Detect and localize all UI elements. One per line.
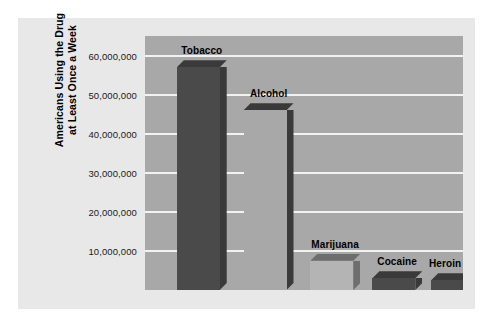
bar-heroin[interactable]	[431, 273, 463, 290]
bar-top-face	[431, 273, 463, 280]
bar-label-cocaine: Cocaine	[377, 256, 417, 267]
bar-side-face	[353, 261, 360, 290]
bar-front-face	[372, 278, 415, 290]
y-tick-label: 20,000,000	[55, 206, 137, 217]
y-tick-label: 10,000,000	[55, 245, 137, 256]
y-tick-label: 50,000,000	[55, 89, 137, 100]
plot-area: TobaccoAlcoholMarijuanaCocaineHeroin	[145, 36, 463, 290]
y-tick-label: 30,000,000	[55, 167, 137, 178]
bar-front-face	[244, 110, 287, 290]
y-tick-label: 60,000,000	[55, 50, 137, 61]
bar-label-tobacco: Tobacco	[181, 45, 222, 56]
bar-label-marijuana: Marijuana	[311, 239, 359, 250]
bar-front-face	[431, 280, 463, 290]
bar-front-face	[310, 261, 353, 290]
bar-side-face	[220, 67, 227, 290]
bar-label-heroin: Heroin	[429, 258, 461, 269]
bar-marijuana[interactable]	[310, 254, 353, 290]
bar-top-face	[244, 103, 294, 110]
bar-side-face	[415, 278, 422, 290]
bar-top-face	[177, 60, 227, 67]
chart-figure: Americans Using the Drug at Least Once a…	[0, 0, 492, 327]
bar-tobacco[interactable]	[177, 60, 220, 290]
y-tick-label: 40,000,000	[55, 128, 137, 139]
bar-top-face	[372, 271, 422, 278]
bar-top-face	[310, 254, 360, 261]
bar-alcohol[interactable]	[244, 103, 287, 290]
bar-label-alcohol: Alcohol	[250, 88, 287, 99]
y-axis-tick-labels: 10,000,00020,000,00030,000,00040,000,000…	[55, 36, 137, 295]
bar-side-face	[287, 110, 294, 290]
bar-front-face	[177, 67, 220, 290]
bar-cocaine[interactable]	[372, 271, 415, 290]
